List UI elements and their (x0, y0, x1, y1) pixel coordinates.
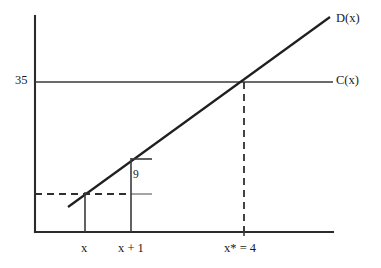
demand-line-dx (68, 17, 330, 207)
x-axis-label-x-plus-1: x + 1 (118, 242, 144, 255)
curve-label-cx: C(x) (336, 74, 359, 87)
y-axis-tick-label-35: 35 (15, 74, 28, 87)
figure-canvas: 35 D(x) C(x) 9 x x + 1 x* = 4 (0, 0, 381, 268)
curve-label-dx: D(x) (336, 12, 360, 25)
step-size-label: 9 (133, 169, 139, 181)
diagram-svg (0, 0, 381, 268)
x-axis-label-x-star: x* = 4 (224, 242, 256, 255)
x-axis-label-x: x (81, 242, 87, 255)
